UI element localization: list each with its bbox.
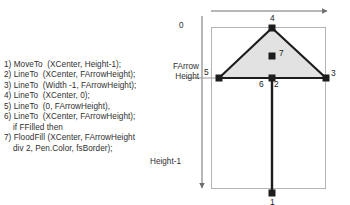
- point-label-center-left: 6: [259, 80, 264, 90]
- vertex-marker-left: [216, 75, 223, 82]
- axis-label-farrow-height: FArrow Height: [151, 62, 199, 81]
- figure-root: 1) MoveTo (XCenter, Height-1); 2) LineTo…: [0, 0, 350, 205]
- point-label-right-vertex: 3: [331, 69, 336, 79]
- vertex-marker-bottom: [269, 190, 276, 197]
- point-label-center-right: 2: [274, 80, 279, 90]
- arrow-diagram: [0, 0, 350, 205]
- point-label-left-vertex: 5: [204, 68, 209, 78]
- farrow-height-line-2: Height: [151, 72, 199, 82]
- farrow-height-line-1: FArrow: [151, 62, 199, 72]
- axis-label-height-minus-1: Height-1: [150, 157, 181, 167]
- point-label-bottom: 1: [270, 198, 275, 205]
- point-label-floodfill: 7: [279, 49, 284, 59]
- floodfill-point-marker: [269, 53, 276, 60]
- point-label-apex: 4: [270, 14, 275, 24]
- vertex-marker-right: [323, 75, 330, 82]
- axis-label-origin: 0: [179, 21, 184, 31]
- vertex-marker-apex: [269, 25, 276, 32]
